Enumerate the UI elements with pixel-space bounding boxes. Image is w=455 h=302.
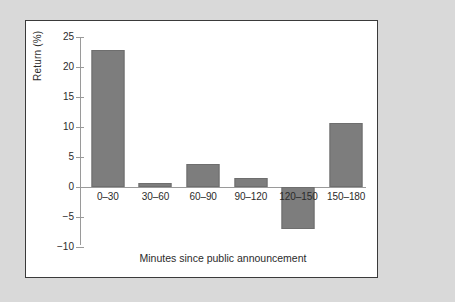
bar [139, 183, 172, 187]
bar [234, 178, 267, 187]
x-tick-label: 0–30 [97, 191, 119, 202]
x-tick-label: 120–150 [279, 191, 317, 202]
bar [330, 123, 363, 187]
x-axis-title: Minutes since public announcement [80, 252, 366, 264]
y-tick-label: 0 [68, 180, 74, 193]
y-tick-label: 5 [68, 150, 74, 163]
plot-area: 2520151050−5−10 0–3030–6060–9090–120120–… [80, 37, 366, 249]
x-tick-label: 30–60 [142, 191, 169, 202]
bar-group: 60–90 [179, 37, 227, 249]
x-tick-label: 60–90 [190, 191, 217, 202]
bar-group: 30–60 [132, 37, 180, 249]
bar-group: 90–120 [227, 37, 275, 249]
y-tick-label: −5 [63, 210, 74, 223]
x-tick-label: 90–120 [234, 191, 267, 202]
y-axis-title: Return (%) [32, 31, 43, 81]
y-tick-label: 15 [63, 90, 74, 103]
y-tick-label: 10 [63, 120, 74, 133]
y-tick-label: 20 [63, 60, 74, 73]
bar-series: 0–3030–6060–9090–120120–150150–180 [80, 37, 366, 249]
bar-group: 0–30 [84, 37, 132, 249]
bar-group: 120–150 [275, 37, 323, 249]
y-tick-label: −10 [57, 240, 74, 253]
chart-figure: Return (%) 2520151050−5−10 0–3030–6060–9… [25, 20, 378, 278]
y-tick-label: 25 [63, 30, 74, 43]
x-tick-label: 150–180 [327, 191, 365, 202]
bar-group: 150–180 [322, 37, 370, 249]
bar [91, 50, 124, 187]
bar [187, 164, 220, 187]
